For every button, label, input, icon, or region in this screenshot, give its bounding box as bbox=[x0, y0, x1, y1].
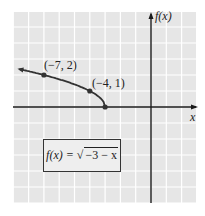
data-point bbox=[41, 72, 46, 77]
data-point bbox=[103, 104, 108, 109]
point-label: (−4, 1) bbox=[92, 76, 125, 90]
formula-radicand: −3 − x bbox=[84, 147, 118, 162]
chart: (−7, 2) (−4, 1) f(x) x bbox=[0, 0, 205, 216]
x-axis-label: x bbox=[189, 110, 196, 124]
y-axis-label: f(x) bbox=[155, 9, 172, 23]
function-formula-box: f(x) = √−3 − x bbox=[43, 139, 121, 172]
point-label: (−7, 2) bbox=[44, 58, 77, 72]
formula-lhs: f(x) = bbox=[46, 148, 74, 163]
sqrt-expression: √−3 − x bbox=[77, 148, 118, 163]
